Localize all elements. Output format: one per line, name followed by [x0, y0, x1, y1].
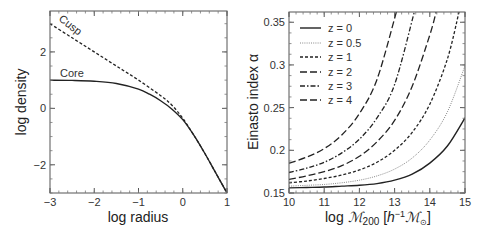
- x-tick-label: 12: [353, 196, 365, 208]
- left-chart-panel: −3−2−101−202 Cusp Core log radius log de…: [13, 11, 230, 225]
- left-y-axis-label: log density: [13, 69, 29, 136]
- y-tick-label: −2: [33, 159, 46, 171]
- legend-label: z = 0.5: [328, 37, 361, 49]
- x-tick-label: 15: [459, 196, 471, 208]
- y-tick-label: 0.15: [264, 187, 285, 199]
- xlabel-sun-subscript: ⊙: [420, 218, 427, 227]
- right-series-z-0: [289, 118, 465, 188]
- left-x-axis-label: log radius: [108, 209, 169, 225]
- right-chart-ticks: [289, 12, 465, 193]
- x-tick-label: 0: [180, 196, 186, 208]
- x-tick-label: 14: [424, 196, 436, 208]
- xlabel-bracket-open: [: [379, 209, 387, 225]
- y-tick-label: 0.35: [264, 16, 285, 28]
- xlabel-superscript: −1: [395, 209, 405, 219]
- right-x-axis-label: log ℳ200 [h−1ℳ⊙]: [325, 209, 431, 227]
- legend-label: z = 0: [328, 22, 352, 34]
- figure: −3−2−101−202 Cusp Core log radius log de…: [0, 0, 487, 243]
- x-tick-label: −1: [132, 196, 145, 208]
- legend: z = 0z = 0.5z = 1z = 2z = 3z = 4: [300, 22, 361, 106]
- right-chart-panel: 1011121314150.150.20.250.30.35 z = 0z = …: [245, 12, 471, 227]
- y-tick-label: 0.3: [270, 59, 285, 71]
- xlabel-bracket-close: ]: [427, 209, 431, 225]
- left-plot-frame: [50, 11, 227, 193]
- right-series-z-2: [289, 12, 436, 179]
- xlabel-h: h: [387, 209, 395, 225]
- legend-label: z = 2: [328, 66, 352, 78]
- left-series-core: [50, 80, 227, 193]
- y-tick-label: 2: [40, 46, 46, 58]
- left-chart-ticks: [50, 11, 227, 193]
- x-tick-label: −3: [44, 196, 57, 208]
- core-annotation: Core: [60, 67, 84, 79]
- legend-label: z = 1: [328, 51, 352, 63]
- xlabel-subscript: 200: [363, 216, 380, 227]
- legend-label: z = 4: [328, 94, 352, 106]
- right-y-axis-label: Einasto index α: [245, 54, 261, 150]
- left-chart-curves: [50, 24, 227, 193]
- right-series-z-1: [289, 12, 459, 183]
- y-tick-label: 0.2: [270, 144, 285, 156]
- y-tick-label: 0.25: [264, 102, 285, 114]
- x-tick-label: 1: [224, 196, 230, 208]
- legend-label: z = 3: [328, 80, 352, 92]
- cusp-annotation: Cusp: [57, 12, 85, 37]
- right-plot-frame: [289, 12, 465, 193]
- x-tick-label: 13: [388, 196, 400, 208]
- y-tick-label: 0: [40, 102, 46, 114]
- x-tick-label: 11: [318, 196, 329, 208]
- x-tick-label: −2: [88, 196, 101, 208]
- xlabel-prefix: log: [325, 209, 348, 225]
- right-chart-tick-labels: 1011121314150.150.20.250.30.35: [264, 16, 472, 208]
- left-series-cusp: [50, 24, 227, 193]
